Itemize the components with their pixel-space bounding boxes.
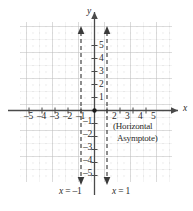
origin-point xyxy=(92,108,96,112)
horizontal-asymptote-note-line2: Asymptote) xyxy=(117,133,158,144)
graph-figure: x y –5 –4 –3 –2 –1 2 3 4 5 5 4 3 2 1 –1 … xyxy=(0,0,193,211)
y-tick-label-neg4: –4 xyxy=(83,156,92,166)
y-tick-label-neg1: –1 xyxy=(83,117,92,127)
y-tick-label-1: 1 xyxy=(99,93,104,103)
y-tick-label-5: 5 xyxy=(99,41,104,51)
y-tick-label-3: 3 xyxy=(99,67,104,77)
y-tick-label-2: 2 xyxy=(99,80,104,90)
y-axis-label: y xyxy=(87,7,91,17)
vertical-asymptote-left-label: x = –1 xyxy=(59,187,82,197)
vertical-asymptote-right-label: x = 1 xyxy=(112,187,130,197)
x-axis-label: x xyxy=(183,104,187,114)
horizontal-asymptote-note-line1: (Horizontal xyxy=(113,121,152,132)
y-tick-label-neg2: –2 xyxy=(83,130,92,140)
y-tick-label-neg3: –3 xyxy=(83,143,92,153)
x-tick-label-neg3: –3 xyxy=(50,112,59,122)
x-tick-label-neg5: –5 xyxy=(24,112,33,122)
x-tick-label-neg4: –4 xyxy=(37,112,46,122)
coordinate-plane-graphic xyxy=(0,0,193,211)
y-tick-label-neg5: –5 xyxy=(83,169,92,179)
y-tick-label-4: 4 xyxy=(99,54,104,64)
x-tick-label-neg2: –2 xyxy=(63,112,72,122)
